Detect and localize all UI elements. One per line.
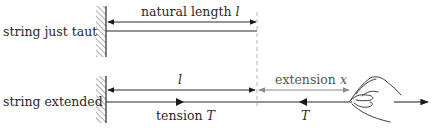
hatched-wall-icon	[96, 6, 106, 57]
row-label-just-taut: string just taut	[3, 26, 97, 39]
row-label-extended: string extended	[3, 96, 103, 109]
natural-length-text: natural length	[141, 4, 232, 19]
diagram-canvas: string just taut string extended natural…	[0, 0, 433, 128]
hand-pulling-icon	[350, 77, 401, 122]
tension-symbol-right: T	[301, 110, 309, 123]
tension-arrowhead-left-icon	[299, 98, 307, 106]
tension-text: tension	[156, 108, 202, 123]
natural-length-symbol: l	[235, 4, 239, 19]
wall-top	[96, 6, 106, 57]
tension-label-left: tension T	[156, 110, 215, 123]
length-l-symbol: l	[178, 74, 182, 87]
extension-text: extension	[275, 72, 336, 87]
tension-symbol-left: T	[206, 108, 214, 123]
extension-label: extension x	[275, 74, 347, 87]
tension-arrowhead-right-icon	[176, 98, 184, 106]
extension-symbol: x	[340, 72, 347, 87]
natural-length-label: natural length l	[141, 6, 239, 19]
